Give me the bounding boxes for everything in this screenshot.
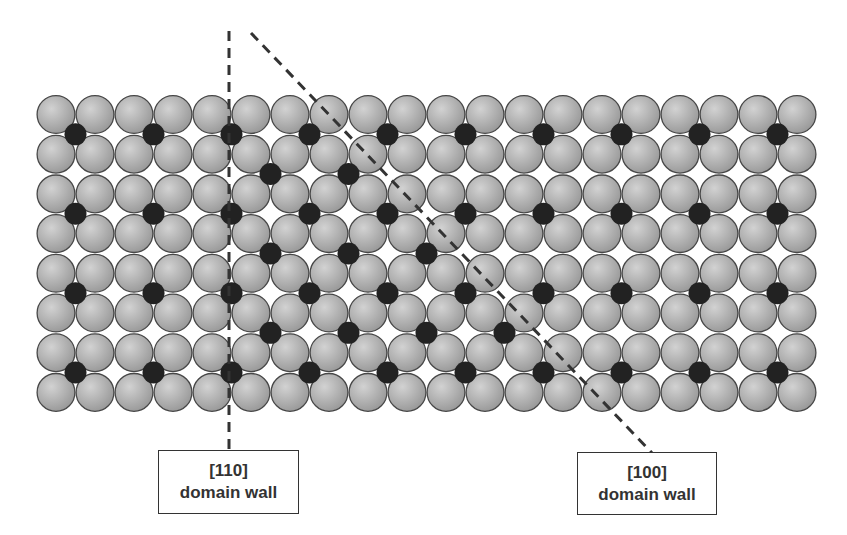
small-atom [143, 282, 165, 304]
small-atom [299, 282, 321, 304]
small-atom [689, 282, 711, 304]
small-atom [455, 123, 477, 145]
small-atom [611, 362, 633, 384]
small-atom [221, 123, 243, 145]
small-atom [221, 203, 243, 225]
small-atom [767, 123, 789, 145]
small-atom [221, 282, 243, 304]
small-atom [611, 203, 633, 225]
small-atom [338, 322, 360, 344]
label-110-text: domain wall [180, 482, 277, 504]
small-atom [611, 123, 633, 145]
small-atom [65, 203, 87, 225]
small-atom [65, 362, 87, 384]
small-atom [65, 282, 87, 304]
small-atom [260, 322, 282, 344]
label-100-domain-wall: [100] domain wall [577, 452, 717, 515]
small-atom [143, 362, 165, 384]
small-atom [533, 282, 555, 304]
small-atom [533, 362, 555, 384]
small-atom [143, 123, 165, 145]
label-110-direction: [110] [209, 460, 248, 482]
small-atom [494, 322, 516, 344]
small-atom [338, 242, 360, 264]
small-atom [377, 362, 399, 384]
small-atom [299, 362, 321, 384]
label-110-domain-wall: [110] domain wall [158, 450, 299, 514]
small-atom [767, 362, 789, 384]
small-atom [689, 203, 711, 225]
small-atom [65, 123, 87, 145]
small-atom [260, 242, 282, 264]
small-atom [533, 123, 555, 145]
label-100-direction: [100] [627, 462, 667, 484]
small-atom [416, 322, 438, 344]
small-atom [299, 123, 321, 145]
small-atom [377, 123, 399, 145]
lattice-diagram [0, 0, 847, 535]
small-atom [377, 203, 399, 225]
small-atom [221, 362, 243, 384]
small-atom [767, 282, 789, 304]
small-atom [689, 362, 711, 384]
small-atom [416, 242, 438, 264]
label-100-text: domain wall [598, 484, 695, 506]
small-atom [533, 203, 555, 225]
small-atom [260, 163, 282, 185]
small-atom [143, 203, 165, 225]
small-atom [689, 123, 711, 145]
small-atom [299, 203, 321, 225]
small-atom [455, 203, 477, 225]
small-atom [767, 203, 789, 225]
small-atom [338, 163, 360, 185]
small-atom [377, 282, 399, 304]
small-atom [455, 362, 477, 384]
small-atom [611, 282, 633, 304]
small-atom [455, 282, 477, 304]
